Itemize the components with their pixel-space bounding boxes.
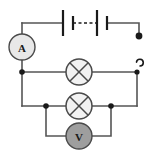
node-voltmeter-left bbox=[43, 103, 49, 109]
circuit-diagram: A V bbox=[0, 0, 148, 154]
battery-symbol bbox=[63, 10, 107, 36]
lamp-bottom bbox=[66, 93, 92, 119]
wire-voltmeter-left-drop bbox=[46, 106, 66, 136]
ammeter: A bbox=[9, 34, 35, 60]
ammeter-label: A bbox=[18, 42, 26, 54]
node-voltmeter-right bbox=[108, 103, 114, 109]
battery-terminal-dot bbox=[136, 33, 143, 40]
node-ammeter-branch bbox=[19, 69, 25, 75]
switch-blade bbox=[137, 59, 144, 66]
wire-voltmeter-right-drop bbox=[92, 106, 111, 136]
circuit-diagram-canvas: A V bbox=[0, 0, 148, 154]
voltmeter-label: V bbox=[75, 131, 83, 143]
switch-contact-lower bbox=[134, 69, 139, 74]
lamp-top bbox=[66, 59, 92, 85]
open-switch[interactable] bbox=[134, 59, 143, 74]
voltmeter: V bbox=[66, 123, 92, 149]
wire-battery-to-terminal bbox=[107, 23, 139, 36]
